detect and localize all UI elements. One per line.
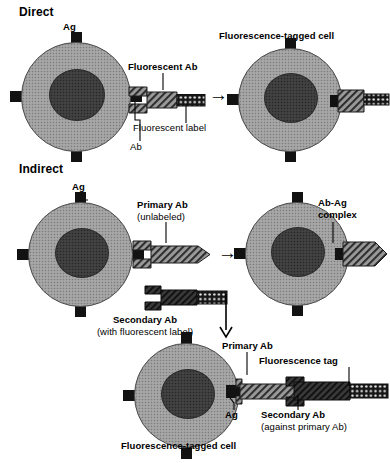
antibody-complex-icon-result: [226, 375, 390, 407]
nucleus-icon: [264, 73, 318, 123]
secondary-ab-label-result: Secondary Ab: [261, 410, 325, 420]
arrow-right-icon: →: [209, 85, 228, 104]
primary-ab-leader-result: [244, 352, 250, 376]
ab-caption-direct: Ab: [130, 142, 142, 152]
fluorescence-tag-leader: [346, 367, 352, 387]
ag-leader-result: [228, 397, 242, 411]
ag-label-direct: Ag: [63, 22, 76, 32]
cell-indirect-result: [134, 343, 239, 448]
secondary-ab-label: Secondary Ab: [113, 315, 177, 325]
cell-direct-right: [238, 48, 342, 152]
nucleus-icon: [161, 369, 215, 419]
cell-indirect-left: [28, 202, 133, 307]
antibody-icon-primary: [132, 240, 214, 270]
nucleus-icon: [55, 228, 109, 278]
ag-label-result: Ag: [225, 410, 238, 420]
antibody-icon-bound-primary: [335, 240, 390, 268]
secondary-ab-sublabel: (with fluorescent label): [97, 327, 193, 337]
section-title-direct: Direct: [19, 6, 54, 19]
figure-canvas: Direct Ag Fluorescent Ab Fluorescent lab…: [0, 0, 390, 463]
cell-direct-left: [21, 42, 131, 152]
secondary-ab-leader-result: [295, 396, 301, 411]
section-title-indirect: Indirect: [19, 163, 63, 176]
nucleus-icon: [49, 69, 105, 121]
result-label-indirect: Fluorescence-tagged cell: [121, 441, 236, 451]
primary-ab-label: Primary Ab: [137, 200, 188, 210]
ab-leader-direct: [133, 100, 145, 142]
fluorescent-label-leader: [183, 105, 189, 124]
arrow-down-icon: [216, 294, 236, 340]
secondary-ab-sublabel-result: (against primary Ab): [261, 422, 347, 432]
nucleus-icon: [271, 227, 325, 277]
ab-ag-complex-label-line2: complex: [318, 210, 357, 220]
ab-ag-complex-label-line1: Ab-Ag: [318, 198, 347, 208]
ag-label-indirect: Ag: [72, 182, 85, 192]
primary-ab-label-result: Primary Ab: [222, 341, 273, 351]
fluorescent-ab-label: Fluorescent Ab: [128, 62, 198, 72]
antibody-icon-bound-direct: [330, 88, 390, 114]
result-label-direct: Fluorescence-tagged cell: [219, 31, 334, 41]
fluorescence-tag-label: Fluorescence tag: [259, 356, 338, 366]
primary-ab-sublabel: (unlabeled): [137, 212, 185, 222]
